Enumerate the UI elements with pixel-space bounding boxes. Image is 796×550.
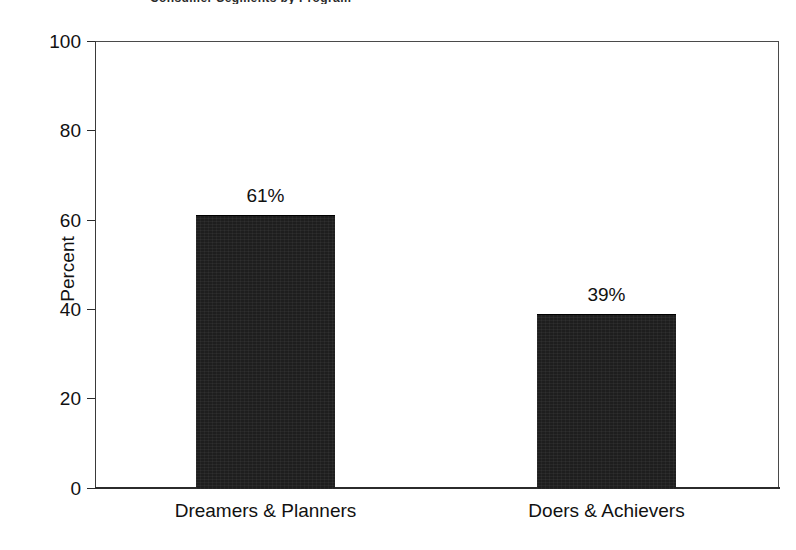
- y-tick-20: [87, 398, 95, 399]
- y-tick-label-80: 80: [13, 121, 81, 140]
- bar-dreamers-planners: [196, 215, 335, 489]
- y-tick-label-20: 20: [13, 389, 81, 408]
- y-tick-0: [87, 488, 95, 489]
- x-category-label-doers-achievers: Doers & Achievers: [497, 500, 716, 522]
- y-tick-60: [87, 220, 95, 221]
- chart-title-cutoff: Consumer Segments by Program: [150, 0, 570, 4]
- y-tick-label-100: 100: [13, 32, 81, 51]
- y-tick-100: [87, 41, 95, 42]
- x-category-label-dreamers-planners: Dreamers & Planners: [156, 500, 375, 522]
- y-tick-40: [87, 309, 95, 310]
- y-axis-title: Percent: [57, 209, 79, 329]
- y-tick-80: [87, 130, 95, 131]
- y-tick-label-0: 0: [13, 479, 81, 498]
- bar-value-doers-achievers: 39%: [537, 285, 676, 304]
- y-axis-line: [95, 41, 96, 489]
- bar-value-dreamers-planners: 61%: [196, 186, 335, 205]
- bar-chart-figure: Consumer Segments by Program 100 80 60 4…: [0, 0, 796, 550]
- bar-doers-achievers: [537, 314, 676, 489]
